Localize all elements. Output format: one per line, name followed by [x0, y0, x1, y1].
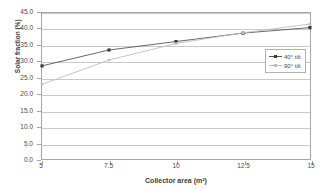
y-tick-label: 25.0 [20, 75, 33, 82]
x-tick-label: 7.5 [104, 163, 113, 170]
legend-item-2[interactable]: 90° tilt [269, 61, 301, 70]
x-tick-label: 10 [172, 163, 179, 170]
x-tick-label: 12.5 [237, 163, 250, 170]
legend-swatch-icon [269, 53, 282, 60]
y-tick-label: 45.0 [20, 9, 33, 16]
y-tick-label: 15.0 [20, 107, 33, 114]
x-axis-tick-labels: 57.51012.515 [41, 163, 311, 175]
data-point [40, 64, 43, 67]
data-point [175, 42, 178, 45]
legend-swatch-icon [269, 62, 282, 69]
y-tick-label: 20.0 [20, 91, 33, 98]
y-tick-label: 40.0 [20, 25, 33, 32]
y-tick-mark [37, 160, 41, 161]
plot-area [41, 12, 311, 160]
legend-label: 90° tilt [284, 63, 301, 69]
series-layer [42, 13, 310, 159]
legend-label: 40° tilt [284, 54, 301, 60]
y-tick-label: 10.0 [20, 124, 33, 131]
data-point [308, 26, 311, 29]
y-axis-tick-labels: 0.05.010.015.020.025.030.035.040.045.0 [0, 12, 37, 160]
data-point [309, 23, 312, 26]
y-tick-label: 5.0 [24, 140, 33, 147]
y-tick-label: 0.0 [24, 157, 33, 164]
y-tick-label: 35.0 [20, 42, 33, 49]
x-tick-label: 15 [307, 163, 314, 170]
y-tick-label: 30.0 [20, 58, 33, 65]
chart-container: Solar fraction (%) 0.05.010.015.020.025.… [0, 0, 326, 190]
legend: 40° tilt90° tilt [265, 49, 306, 73]
data-point [107, 48, 110, 51]
data-point [41, 83, 44, 86]
x-axis-title: Collector area (m²) [41, 177, 311, 184]
legend-item-1[interactable]: 40° tilt [269, 52, 301, 61]
x-tick-label: 5 [39, 163, 43, 170]
data-point [242, 32, 245, 35]
data-point [108, 59, 111, 62]
